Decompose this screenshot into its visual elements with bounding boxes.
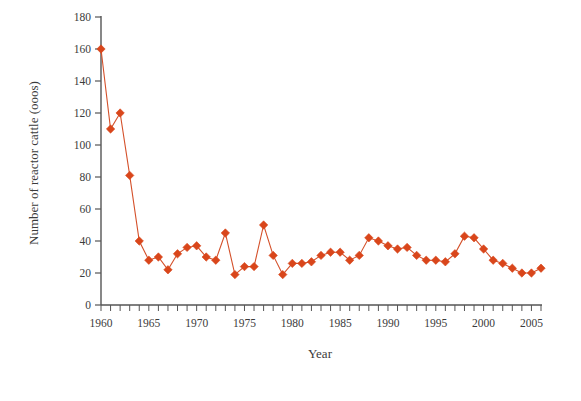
line-chart-canvas: 020406080100120140160180 196019651970197… <box>0 0 581 401</box>
data-point-marker <box>97 45 105 53</box>
data-point-marker <box>317 251 325 259</box>
data-point-marker <box>508 264 516 272</box>
x-tick-label: 1980 <box>281 317 304 329</box>
x-axis: 1960196519701975198019851990199520002005 <box>90 305 544 329</box>
data-point-marker <box>154 253 162 261</box>
data-point-marker <box>384 242 392 250</box>
y-tick-label: 100 <box>74 139 92 151</box>
data-point-marker <box>135 237 143 245</box>
data-point-marker <box>250 262 258 270</box>
x-tick-label: 1985 <box>329 317 352 329</box>
data-point-marker <box>173 250 181 258</box>
y-axis-title: Number of reactor cattle (ooos) <box>26 81 41 245</box>
data-point-marker <box>212 256 220 264</box>
data-point-marker <box>355 251 363 259</box>
data-series-reactor-cattle <box>97 45 545 279</box>
data-point-marker <box>106 125 114 133</box>
x-tick-label: 2005 <box>520 317 543 329</box>
y-tick-label: 60 <box>80 203 92 215</box>
x-tick-label: 2000 <box>472 317 495 329</box>
y-tick-label: 120 <box>74 107 92 119</box>
data-point-marker <box>221 229 229 237</box>
x-tick-label: 1975 <box>233 317 256 329</box>
y-tick-label: 0 <box>85 299 91 311</box>
data-point-marker <box>307 258 315 266</box>
x-tick-label: 1970 <box>185 317 208 329</box>
data-point-marker <box>259 221 267 229</box>
data-point-marker <box>365 234 373 242</box>
y-tick-label: 180 <box>74 11 92 23</box>
data-point-marker <box>432 256 440 264</box>
data-point-marker <box>298 259 306 267</box>
x-axis-title: Year <box>308 346 333 361</box>
y-tick-label: 20 <box>80 267 92 279</box>
data-point-marker <box>499 259 507 267</box>
y-tick-label: 40 <box>80 235 92 247</box>
data-point-marker <box>145 256 153 264</box>
data-point-marker <box>125 171 133 179</box>
chart-figure: 020406080100120140160180 196019651970197… <box>0 0 581 401</box>
y-tick-label: 140 <box>74 75 92 87</box>
x-tick-label: 1960 <box>90 317 113 329</box>
data-point-marker <box>326 248 334 256</box>
data-point-marker <box>393 245 401 253</box>
y-axis: 020406080100120140160180 <box>74 11 101 311</box>
data-point-marker <box>527 269 535 277</box>
data-point-marker <box>116 109 124 117</box>
data-point-marker <box>374 237 382 245</box>
y-tick-label: 160 <box>74 43 92 55</box>
x-tick-label: 1995 <box>424 317 447 329</box>
data-point-marker <box>518 269 526 277</box>
x-tick-label: 1965 <box>137 317 160 329</box>
y-tick-label: 80 <box>80 171 92 183</box>
x-tick-label: 1990 <box>376 317 399 329</box>
data-point-marker <box>183 243 191 251</box>
data-point-marker <box>269 251 277 259</box>
data-point-marker <box>164 266 172 274</box>
data-point-marker <box>460 232 468 240</box>
data-point-marker <box>537 264 545 272</box>
data-point-marker <box>422 256 430 264</box>
